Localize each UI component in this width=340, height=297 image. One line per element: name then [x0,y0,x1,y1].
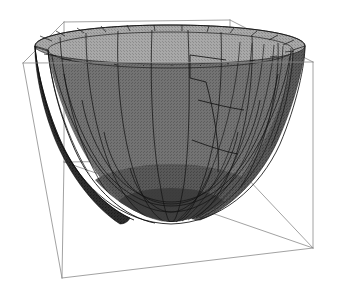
surface-plot-canvas [0,0,340,297]
surface-top-rim [35,25,305,68]
surface-plot-figure: z = x^2 + y^2 [0,0,340,297]
